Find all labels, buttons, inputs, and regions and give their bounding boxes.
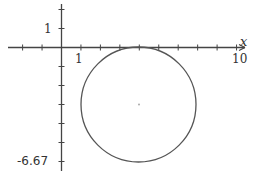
x-tick-label-10: 10 [232,53,247,65]
y-tick-label-1: 1 [44,23,52,35]
graph-plot [0,0,255,172]
center-point [138,104,140,106]
x-axis-label: x [240,35,247,48]
y-min-label: -6.67 [17,155,48,167]
x-tick-label-1: 1 [75,53,83,65]
